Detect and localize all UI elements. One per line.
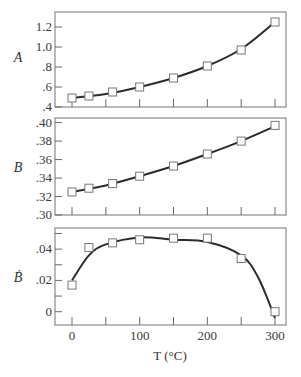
y-tick-label: 1.0 [36, 39, 52, 54]
fit-curve [72, 22, 275, 98]
data-point-marker [237, 46, 245, 54]
y-axis-label: B [14, 160, 23, 175]
data-point-marker [237, 137, 245, 145]
data-point-marker [85, 184, 93, 192]
y-tick-label: .34 [36, 170, 53, 185]
y-tick-label: .8 [42, 59, 52, 74]
data-point-marker [85, 244, 93, 252]
y-tick-label: .6 [42, 79, 52, 94]
data-point-marker [170, 162, 178, 170]
panel-b: .30.32.34.36.38.40B [14, 115, 286, 222]
panel-b-dot: 0.02.040100200300Ḃ [14, 228, 286, 343]
x-tick-label: 300 [265, 328, 285, 343]
data-point-marker [203, 62, 211, 70]
y-tick-label: 1.2 [36, 19, 52, 34]
data-point-marker [85, 92, 93, 100]
data-point-marker [271, 18, 279, 26]
y-tick-label: .38 [36, 133, 52, 148]
y-axis-label: A [13, 50, 23, 65]
data-point-marker [109, 88, 117, 96]
data-point-marker [68, 281, 76, 289]
fit-curve [72, 237, 275, 318]
data-point-marker [271, 308, 279, 316]
x-tick-label: 200 [198, 328, 218, 343]
x-axis-label: T (°C) [153, 348, 186, 363]
y-tick-label: .36 [36, 152, 53, 167]
x-tick-label: 100 [130, 328, 150, 343]
data-point-marker [109, 239, 117, 247]
y-tick-label: .40 [36, 115, 52, 130]
chart-figure: .4.6.81.01.2A.30.32.34.36.38.40B0.02.040… [0, 0, 301, 377]
data-point-marker [237, 255, 245, 263]
data-point-marker [170, 234, 178, 242]
x-tick-label: 0 [69, 328, 76, 343]
y-tick-label: .04 [36, 241, 53, 256]
data-point-marker [68, 188, 76, 196]
data-point-marker [109, 180, 117, 188]
data-point-marker [203, 234, 211, 242]
data-point-marker [136, 172, 144, 180]
y-tick-label: .4 [42, 99, 52, 114]
data-point-marker [170, 74, 178, 82]
fit-curve [72, 126, 275, 192]
y-tick-label: 0 [46, 304, 53, 319]
data-point-marker [203, 150, 211, 158]
data-point-marker [136, 236, 144, 244]
y-tick-label: .32 [36, 189, 52, 204]
data-point-marker [68, 94, 76, 102]
y-tick-label: .30 [36, 207, 52, 222]
y-tick-label: .02 [36, 272, 52, 287]
panel-a: .4.6.81.01.2A [13, 12, 286, 114]
y-axis-label: Ḃ [14, 270, 23, 285]
data-point-marker [271, 121, 279, 129]
data-point-marker [136, 83, 144, 91]
